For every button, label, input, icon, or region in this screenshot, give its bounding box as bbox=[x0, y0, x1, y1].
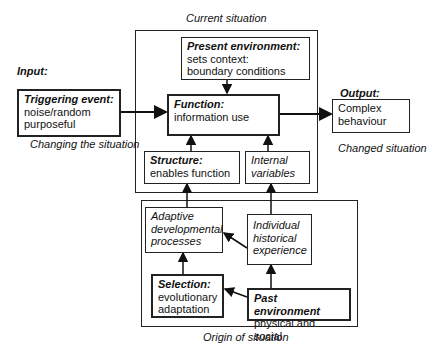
internal-variables-line: Internal bbox=[251, 154, 304, 167]
adaptive-processes-line: processes bbox=[151, 235, 217, 248]
selection-title: Selection: bbox=[158, 278, 217, 291]
output-line: behaviour bbox=[338, 115, 404, 128]
structure-title: Structure: bbox=[150, 154, 234, 167]
individual-experience-line: historical bbox=[253, 232, 306, 245]
adaptive-processes-line: Adaptive bbox=[151, 210, 217, 223]
present-environment-line: sets context: bbox=[187, 53, 304, 66]
arrow-individual-to-adaptive bbox=[224, 233, 247, 248]
present-environment-title: Present environment: bbox=[187, 40, 304, 53]
internal-variables-line: variables bbox=[251, 167, 304, 180]
internal-variables-box: Internal variables bbox=[245, 151, 310, 184]
output-line: Complex bbox=[338, 102, 404, 115]
triggering-event-box: Triggering event: noise/random purposefu… bbox=[17, 89, 121, 137]
adaptive-processes-box: Adaptive developmental processes bbox=[145, 207, 223, 253]
structure-line: enables function bbox=[150, 167, 234, 180]
function-line: information use bbox=[174, 111, 273, 124]
arrow-past-to-selection bbox=[225, 289, 247, 297]
adaptive-processes-line: developmental bbox=[151, 223, 217, 236]
changed-situation-label: Changed situation bbox=[338, 142, 427, 154]
past-environment-box: Past environment physical and social bbox=[247, 288, 351, 321]
selection-line: adaptation bbox=[158, 303, 217, 316]
output-label: Output: bbox=[340, 87, 380, 99]
triggering-event-title: Triggering event: bbox=[24, 93, 114, 106]
output-box: Complex behaviour bbox=[332, 99, 410, 133]
current-situation-label: Current situation bbox=[186, 12, 267, 24]
structure-box: Structure: enables function bbox=[144, 151, 240, 184]
function-box: Function: information use bbox=[167, 94, 280, 136]
past-environment-line: physical and social bbox=[254, 317, 344, 342]
input-label: Input: bbox=[17, 65, 48, 77]
present-environment-box: Present environment: sets context: bound… bbox=[181, 37, 310, 80]
changing-situation-label: Changing the situation bbox=[30, 138, 139, 150]
function-title: Function: bbox=[174, 98, 273, 111]
selection-box: Selection: evolutionary adaptation bbox=[151, 274, 224, 318]
individual-experience-line: experience bbox=[253, 244, 306, 257]
individual-experience-box: Individual historical experience bbox=[247, 214, 312, 265]
past-environment-title: Past environment bbox=[254, 292, 344, 317]
triggering-event-line: purposeful bbox=[24, 118, 114, 131]
triggering-event-line: noise/random bbox=[24, 106, 114, 119]
present-environment-line: boundary conditions bbox=[187, 65, 304, 78]
selection-line: evolutionary bbox=[158, 291, 217, 304]
individual-experience-line: Individual bbox=[253, 219, 306, 232]
